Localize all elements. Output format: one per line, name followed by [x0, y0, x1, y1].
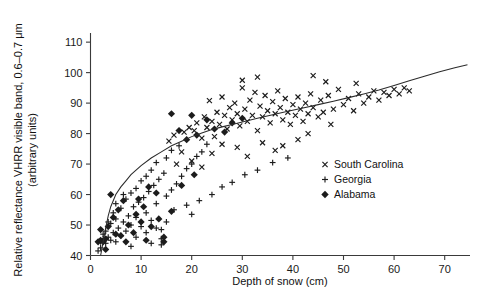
x-axis-ticks: 010203040506070: [87, 256, 450, 275]
x-marker: [295, 95, 300, 100]
x-marker: [293, 113, 298, 118]
x-marker: [397, 91, 402, 96]
x-marker: [217, 122, 222, 127]
x-marker: [260, 140, 265, 145]
x-marker: [280, 143, 285, 148]
x-marker: [326, 93, 331, 98]
x-marker: [192, 128, 197, 133]
x-marker: [255, 75, 260, 80]
x-tick-label: 60: [388, 263, 400, 275]
x-marker: [240, 85, 245, 90]
x-marker: [280, 117, 285, 122]
diamond-marker: [107, 191, 114, 198]
plus-marker: [189, 211, 195, 217]
diamond-marker: [153, 189, 160, 196]
x-marker: [222, 113, 227, 118]
x-marker: [361, 101, 366, 106]
x-marker: [278, 105, 283, 110]
plus-marker: [133, 186, 139, 192]
plus-marker: [143, 230, 149, 236]
y-tick-label: 100: [64, 67, 82, 79]
plus-marker: [148, 240, 154, 246]
x-tick-label: 0: [87, 263, 93, 275]
plus-marker: [204, 141, 210, 147]
x-marker: [245, 154, 250, 159]
x-marker: [232, 101, 237, 106]
plus-marker: [184, 202, 190, 208]
diamond-marker: [140, 203, 147, 210]
x-marker: [250, 113, 255, 118]
x-marker: [295, 137, 300, 142]
plus-marker: [148, 167, 154, 173]
x-marker: [171, 133, 176, 138]
plus-marker: [138, 178, 144, 184]
plus-marker: [113, 201, 119, 207]
plus-marker: [143, 210, 149, 216]
y-tick-label: 80: [70, 128, 82, 140]
x-marker: [199, 136, 204, 141]
plus-marker: [115, 225, 121, 231]
x-marker: [407, 88, 412, 93]
x-tick-label: 70: [439, 263, 451, 275]
plus-marker: [148, 218, 154, 224]
x-marker: [351, 108, 356, 113]
diamond-marker: [145, 183, 152, 190]
x-marker: [240, 78, 245, 83]
plus-marker: [156, 176, 162, 182]
plus-marker: [255, 167, 261, 173]
x-marker: [288, 122, 293, 127]
x-tick-label: 10: [135, 263, 147, 275]
x-marker: [303, 101, 308, 106]
diamond-marker: [155, 215, 162, 222]
y-tick-label: 90: [70, 97, 82, 109]
legend-label: South Carolina: [334, 158, 404, 170]
plus-marker: [128, 190, 134, 196]
diamond-marker: [148, 223, 155, 230]
x-axis-title: Depth of snow (cm): [232, 275, 327, 287]
x-marker: [204, 125, 209, 130]
x-tick-label: 50: [337, 263, 349, 275]
x-marker: [321, 110, 326, 115]
x-tick-label: 20: [186, 263, 198, 275]
plus-marker: [199, 149, 205, 155]
x-marker: [392, 87, 397, 92]
x-marker: [322, 162, 327, 167]
series-alabama: [94, 110, 245, 253]
x-marker: [227, 105, 232, 110]
x-marker: [336, 87, 341, 92]
plus-marker: [153, 201, 159, 207]
x-marker: [306, 131, 311, 136]
x-marker: [311, 73, 316, 78]
plus-marker: [209, 192, 215, 198]
plus-marker: [113, 239, 119, 245]
x-marker: [220, 142, 225, 147]
x-tick-label: 30: [236, 263, 248, 275]
diamond-marker: [122, 238, 129, 245]
legend-item-south_carolina: South Carolina: [322, 158, 403, 170]
x-marker: [179, 149, 184, 154]
y-axis-title-line1: Relative reflectance VHRR visible band, …: [12, 23, 24, 276]
plus-marker: [322, 177, 328, 183]
x-marker: [275, 88, 280, 93]
y-tick-label: 110: [65, 36, 83, 48]
series-south-carolina: [166, 73, 411, 169]
x-marker: [283, 96, 288, 101]
diamond-marker: [191, 171, 198, 178]
x-marker: [258, 104, 263, 109]
x-tick-label: 40: [287, 263, 299, 275]
x-marker: [290, 102, 295, 107]
plus-marker: [196, 198, 202, 204]
plus-marker: [120, 219, 126, 225]
plus-marker: [123, 228, 129, 234]
y-tick-label: 70: [70, 158, 82, 170]
x-marker: [318, 98, 323, 103]
plus-marker: [184, 166, 190, 172]
plus-marker: [285, 155, 291, 161]
diamond-marker: [178, 182, 185, 189]
plus-marker: [179, 173, 185, 179]
x-marker: [328, 122, 333, 127]
x-marker: [237, 123, 242, 128]
x-marker: [252, 90, 257, 95]
plus-marker: [270, 160, 276, 166]
x-marker: [220, 95, 225, 100]
